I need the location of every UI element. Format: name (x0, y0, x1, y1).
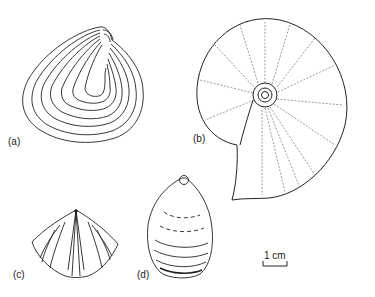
shell-illustrations (0, 0, 375, 297)
panel-label-a: (a) (8, 136, 20, 147)
panel-label-d: (d) (137, 269, 149, 280)
bivalve-shell-drawing (23, 27, 144, 143)
panel-label-b: (b) (193, 133, 205, 144)
scale-bar-label: 1 cm (264, 250, 286, 261)
fossil-shells-figure: (a) (b) (c) (d) 1 cm (0, 0, 375, 297)
panel-label-c: (c) (13, 269, 25, 280)
oval-shell-drawing (148, 176, 213, 278)
ammonoid-shell-drawing (197, 19, 347, 200)
scale-bar (263, 261, 287, 266)
ribbed-shell-drawing (32, 210, 118, 278)
